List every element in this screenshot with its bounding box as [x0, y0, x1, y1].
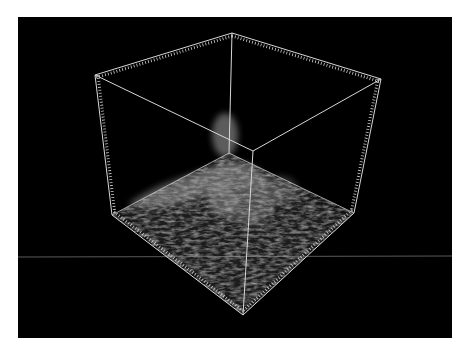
figure-caption: 3D volume rendering inside a bounding bo… [0, 0, 1, 1]
volume-scene [0, 0, 471, 355]
